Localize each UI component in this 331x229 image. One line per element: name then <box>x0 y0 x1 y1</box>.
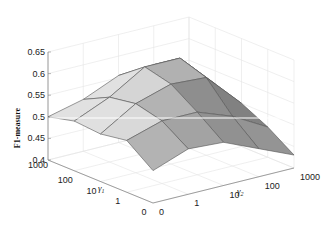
y-tick-label: 1 <box>194 198 199 208</box>
z-axis-label: F1-measure <box>13 107 22 148</box>
x-tick-label: 1000 <box>28 160 48 170</box>
y-tick-label: 1000 <box>300 172 320 182</box>
y-axis-label: γ2 <box>237 186 244 197</box>
x-tick-label: 10 <box>86 186 96 196</box>
z-tick-label: 0.65 <box>27 47 45 57</box>
z-tick-label: 0.6 <box>32 69 45 79</box>
y-tick-label: 100 <box>265 181 280 191</box>
x-tick-label: 0 <box>141 207 146 217</box>
z-tick-label: 0.45 <box>27 133 45 143</box>
x-tick-label: 1 <box>115 196 120 206</box>
x-tick-label: 100 <box>58 175 73 185</box>
y-tick-label: 0 <box>159 207 164 217</box>
z-tick-label: 0.5 <box>32 112 45 122</box>
surface-chart: 0.40.450.50.550.60.650110100100001101001… <box>0 0 331 229</box>
x-axis-label: γ1 <box>98 183 105 194</box>
z-tick-label: 0.55 <box>27 90 45 100</box>
surface <box>48 58 294 171</box>
